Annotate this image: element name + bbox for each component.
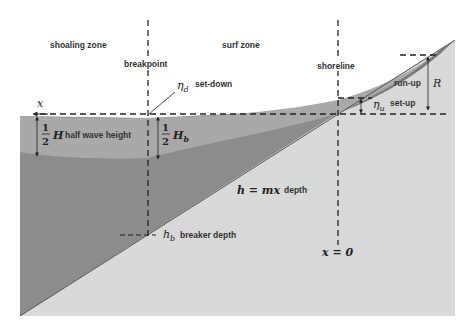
depth-equation: h = mx [237,184,281,197]
half-wave-denominator: 2 [42,136,49,147]
depth-label: depth [284,185,307,195]
half-wave-numerator: 1 [42,122,49,133]
half-wave-b-denominator: 2 [162,136,169,147]
set-up-label: set-up [390,98,416,108]
set-down-symbol: ηd [177,79,189,94]
breakpoint-label: breakpoint [124,59,168,69]
wave-setup-diagram: shoaling zone surf zone breakpoint shore… [0,0,469,336]
shoaling-zone-label: shoaling zone [50,40,107,50]
half-wave-label: half wave height [65,130,131,140]
half-wave-symbol: H [52,129,64,142]
set-down-pointer [149,92,175,114]
run-up-symbol: R [432,77,441,90]
set-down-label: set-down [195,79,232,89]
surf-zone-label: surf zone [222,40,260,50]
run-up-label: run-up [394,78,421,88]
shoreline-label: shoreline [317,61,355,71]
breaker-depth-label: breaker depth [180,230,236,240]
x-axis-label: x [37,97,44,110]
half-wave-b-numerator: 1 [162,122,169,133]
origin-label: x = 0 [321,246,353,259]
